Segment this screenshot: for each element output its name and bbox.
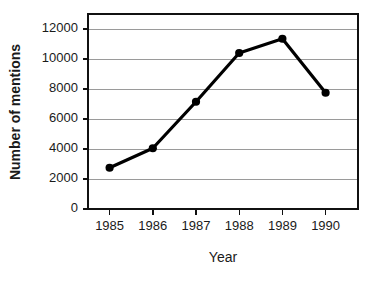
x-tick-label: 1985 (95, 218, 124, 233)
line-chart-figure: 020004000600080001000012000 198519861987… (0, 0, 383, 281)
data-point-marker (278, 35, 286, 43)
y-tick-label: 2000 (49, 170, 78, 185)
x-tick-label: 1986 (138, 218, 167, 233)
data-point-marker (235, 49, 243, 57)
y-tick-label: 8000 (49, 80, 78, 95)
y-tick-label: 10000 (42, 50, 78, 65)
y-tick-label: 0 (71, 200, 78, 215)
y-tick-label: 6000 (49, 110, 78, 125)
x-tick-label: 1990 (311, 218, 340, 233)
y-tick-label: 12000 (42, 20, 78, 35)
x-tick-label: 1989 (268, 218, 297, 233)
data-point-marker (322, 89, 330, 97)
chart-canvas: 020004000600080001000012000 198519861987… (0, 0, 383, 281)
data-point-marker (106, 164, 114, 172)
y-tick-label: 4000 (49, 140, 78, 155)
x-tick-label: 1988 (225, 218, 254, 233)
data-point-marker (192, 98, 200, 106)
y-axis-title: Number of mentions (7, 44, 23, 180)
x-axis-title: Year (209, 249, 238, 265)
data-point-marker (149, 144, 157, 152)
x-tick-label: 1987 (182, 218, 211, 233)
